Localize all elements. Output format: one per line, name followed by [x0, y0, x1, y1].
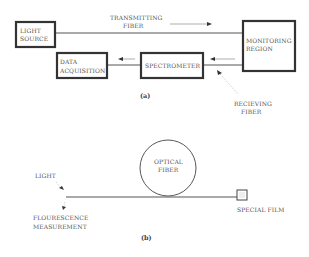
- light-label: LIGHT: [35, 172, 56, 179]
- fluorescence-arrow-icon: [62, 202, 66, 210]
- arrow-right-icon: [170, 22, 212, 26]
- data-acquisition-label-2: ACQUISITION: [59, 67, 105, 74]
- receiving-fiber-label-1: RECIEVING: [234, 100, 272, 107]
- light-source-label-2: SOURCE: [20, 35, 48, 42]
- optical-fiber-label-2: FIBER: [158, 166, 179, 173]
- light-source-label-1: LIGHT: [20, 27, 41, 34]
- arrow-left-icon: [210, 57, 235, 61]
- light-arrow-icon: [56, 182, 64, 190]
- data-acquisition-box: DATA ACQUISITION: [57, 53, 107, 78]
- caption-b: (b): [141, 234, 152, 242]
- light-source-box: LIGHT SOURCE: [16, 22, 55, 47]
- fluorescence-label-1: FLOURESCENCE: [33, 214, 89, 221]
- monitoring-region-label-2: REGION: [246, 45, 273, 52]
- receiving-fiber-pointer-icon: [217, 70, 238, 94]
- arrow-left-icon: [118, 57, 135, 61]
- special-film-icon: [237, 190, 247, 200]
- spectrometer-box: SPECTROMETER: [141, 53, 203, 78]
- transmitting-fiber-label-2: FIBER: [123, 22, 144, 29]
- optical-fiber-label-1: OPTICAL: [154, 158, 183, 165]
- fiber-optic-sensor-diagram: LIGHT SOURCE MONITORING REGION DATA ACQU…: [0, 0, 309, 257]
- data-acquisition-label-1: DATA: [60, 58, 78, 65]
- receiving-fiber-label-2: FIBER: [241, 108, 262, 115]
- transmitting-fiber-label-1: TRANSMITTING: [110, 14, 163, 21]
- monitoring-region-box: MONITORING REGION: [243, 21, 295, 71]
- caption-a: (a): [140, 92, 150, 100]
- figure-a: LIGHT SOURCE MONITORING REGION DATA ACQU…: [16, 14, 295, 115]
- monitoring-region-label-1: MONITORING: [246, 37, 292, 44]
- spectrometer-label: SPECTROMETER: [145, 62, 201, 69]
- figure-b: OPTICAL FIBER SPECIAL FILM LIGHT FLOURES…: [33, 140, 285, 242]
- special-film-label: SPECIAL FILM: [237, 206, 285, 213]
- fluorescence-label-2: MEASUREMENT: [33, 223, 87, 230]
